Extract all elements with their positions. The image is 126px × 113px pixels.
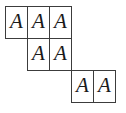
tableau-cell: A (27, 38, 50, 71)
tableau-diagram: AAAAAAA (0, 0, 126, 113)
tableau-cell: A (49, 6, 72, 39)
cell-label: A (10, 11, 23, 32)
cell-label: A (32, 43, 45, 64)
tableau-cell: A (49, 38, 72, 71)
cell-label: A (76, 75, 89, 96)
tableau-cell: A (71, 70, 94, 103)
tableau-cell: A (27, 6, 50, 39)
cell-label: A (32, 11, 45, 32)
cell-label: A (54, 43, 67, 64)
tableau-cell: A (93, 70, 116, 103)
cell-label: A (98, 75, 111, 96)
cell-label: A (54, 11, 67, 32)
tableau-cell: A (5, 6, 28, 39)
